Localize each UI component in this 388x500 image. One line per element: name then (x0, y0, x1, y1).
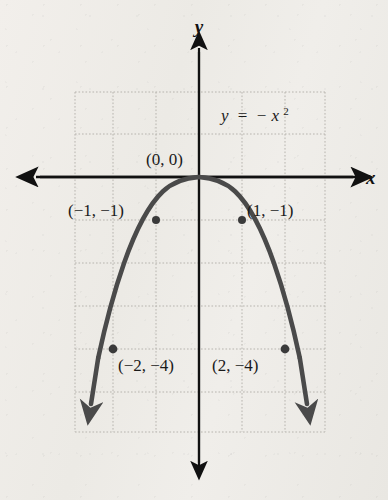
y-axis-label: y (193, 16, 204, 37)
point-label-left-one: (−1, −1) (68, 201, 124, 220)
equation-x: x (270, 106, 279, 125)
point-label-right-one: (1, −1) (247, 201, 293, 220)
equation-exponent: 2 (283, 105, 289, 117)
parabola-arrow-right (300, 358, 307, 404)
graph-figure: y x y = − x 2 (0, 0) (−1, −1) (1, −1) (−… (0, 0, 388, 500)
point-label-left-two: (−2, −4) (118, 356, 174, 375)
equation-label: y = − x 2 (219, 105, 289, 125)
x-axis-label: x (365, 167, 376, 188)
point-label-right-two: (2, −4) (212, 356, 258, 375)
point-marker (281, 345, 290, 354)
equation-y: y (219, 106, 229, 125)
equation-equals: = (238, 106, 248, 125)
equation-minus: − (257, 106, 267, 125)
point-marker (152, 216, 160, 224)
point-label-origin: (0, 0) (146, 150, 183, 169)
point-marker (238, 216, 246, 224)
point-marker (109, 345, 118, 354)
parabola-arrow-left (91, 358, 98, 404)
